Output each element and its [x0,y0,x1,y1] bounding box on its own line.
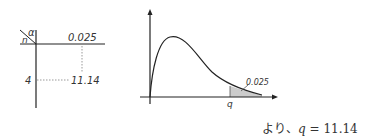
result-variable: q [298,122,306,136]
figure: α n 0.025 4 11.14 0.025 q [0,0,366,136]
table-row-label: 4 [25,75,31,86]
tail-area-label: 0.025 [246,78,269,87]
y-axis-arrow-icon [148,9,153,15]
result-value: 11.14 [323,122,357,136]
density-curve [150,37,262,97]
table-corner-n: n [22,35,28,45]
shaded-tail-area [230,86,262,97]
result-prefix: より、 [262,122,298,136]
critical-point-label: q [227,99,233,109]
table-column-header: 0.025 [68,32,97,43]
table-corner-alpha: α [28,27,35,38]
result-statement: より、q = 11.14 [262,119,358,136]
result-equals: = [306,122,324,136]
table-cell-value: 11.14 [71,75,100,86]
lookup-table: α n 0.025 4 11.14 [20,27,105,108]
distribution-graph: 0.025 q [140,9,278,109]
x-axis-arrow-icon [272,95,278,100]
